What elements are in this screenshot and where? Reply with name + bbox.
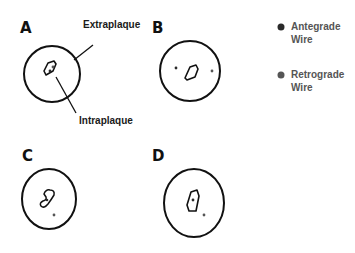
plaque-lumen-a <box>44 61 56 75</box>
plaque-lumen-c <box>40 190 54 207</box>
legend-retrograde-line1: Retrograde <box>291 69 345 80</box>
panel-d: D <box>152 147 224 237</box>
antegrade-wire-dot-c <box>46 199 49 202</box>
plaque-lumen-b <box>185 65 198 80</box>
legend-antegrade-line2: Wire <box>291 34 313 45</box>
intraplaque-label: Intraplaque <box>79 115 133 126</box>
retrograde-marker-icon <box>278 72 285 79</box>
legend-item-retrograde: Retrograde Wire <box>278 69 345 93</box>
antegrade-wire-dot-a <box>49 70 52 73</box>
panel-a: A Extraplaque Intraplaque <box>20 19 141 126</box>
panel-a-label: A <box>20 19 32 37</box>
cto-wire-position-diagram: A Extraplaque Intraplaque B C D <box>0 0 355 253</box>
retrograde-wire-dot-d <box>203 214 206 217</box>
legend-retrograde-line2: Wire <box>291 82 313 93</box>
antegrade-wire-dot-d <box>192 199 195 202</box>
vessel-wall-a <box>24 46 80 102</box>
panel-b-label: B <box>152 19 163 37</box>
panel-d-label: D <box>152 147 164 165</box>
legend-item-antegrade: Antegrade Wire <box>278 21 341 45</box>
extraplaque-label: Extraplaque <box>83 19 141 30</box>
antegrade-wire-dot-b <box>175 67 178 70</box>
intraplaque-pointer <box>56 77 76 113</box>
retrograde-wire-dot-b <box>211 70 214 73</box>
legend-antegrade-line1: Antegrade <box>291 21 341 32</box>
panel-c: C <box>22 147 76 229</box>
antegrade-marker-icon <box>278 24 285 31</box>
retrograde-wire-dot-c <box>53 214 56 217</box>
panel-c-label: C <box>22 147 33 165</box>
vessel-wall-c <box>22 169 76 229</box>
legend: Antegrade Wire Retrograde Wire <box>278 21 345 93</box>
panel-b: B <box>152 19 220 101</box>
extraplaque-pointer <box>74 45 93 60</box>
vessel-wall-d <box>164 169 224 237</box>
retrograde-wire-dot-a <box>52 66 55 69</box>
